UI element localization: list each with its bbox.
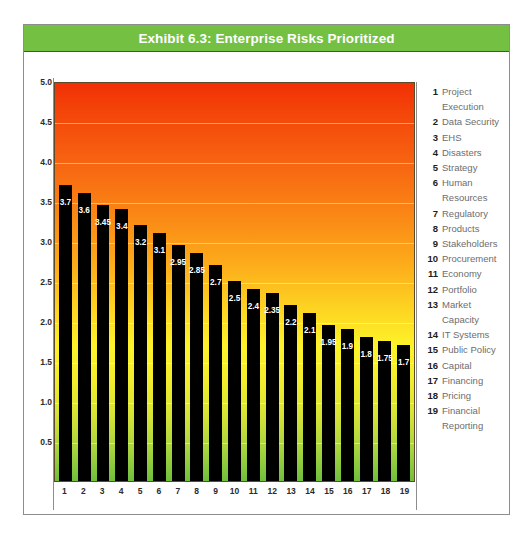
x-axis-tick-label: 16 [338, 483, 357, 501]
y-axis-tick-label: 4.5 [26, 118, 52, 127]
legend-item-label: Procurement [442, 251, 496, 266]
bar[interactable]: 1.7 [397, 345, 410, 481]
bar-slot: 3.45 [94, 83, 113, 481]
legend-item[interactable]: 15Public Policy [425, 342, 509, 357]
legend-item-label: Disasters [442, 145, 482, 160]
bar-slot: 3.2 [131, 83, 150, 481]
legend-item-number: 11 [425, 266, 438, 281]
bar-value-label: 2.2 [285, 319, 296, 327]
legend-item[interactable]: 3EHS [425, 130, 509, 145]
bar[interactable]: 3.2 [134, 225, 147, 481]
legend-item-number: 13 [425, 297, 438, 312]
y-axis-tick-label: 3.0 [26, 238, 52, 247]
legend-item[interactable]: 19Financial Reporting [425, 403, 509, 433]
legend-item-number: 7 [425, 206, 438, 221]
bar-value-label: 3.4 [116, 223, 127, 231]
bar-slot: 2.4 [244, 83, 263, 481]
bar[interactable]: 2.95 [172, 245, 185, 481]
bar-slot: 2.2 [282, 83, 301, 481]
legend-item[interactable]: 7Regulatory [425, 206, 509, 221]
legend-item[interactable]: 9Stakeholders [425, 236, 509, 251]
legend-item-label: IT Systems [442, 327, 489, 342]
bar[interactable]: 2.7 [209, 265, 222, 481]
y-axis-tick-label: 2.5 [26, 278, 52, 287]
bar[interactable]: 2.2 [284, 305, 297, 481]
legend-item-number: 14 [425, 327, 438, 342]
y-axis-tick-label: 0.5 [26, 438, 52, 447]
legend-item-label: Data Security [442, 114, 499, 129]
x-axis-tick-label: 17 [357, 483, 376, 501]
legend-item[interactable]: 12Portfolio [425, 282, 509, 297]
legend-item[interactable]: 8Products [425, 221, 509, 236]
bar[interactable]: 2.4 [247, 289, 260, 481]
bar-value-label: 2.4 [248, 303, 259, 311]
legend-item[interactable]: 2Data Security [425, 114, 509, 129]
legend-item-label: EHS [442, 130, 462, 145]
bar[interactable]: 3.45 [97, 205, 110, 481]
bar-value-label: 3.6 [78, 207, 89, 215]
bar-slot: 2.5 [225, 83, 244, 481]
bar[interactable]: 3.4 [115, 209, 128, 481]
y-axis-tick-label: 5.0 [26, 78, 52, 87]
bar-value-label: 3.1 [154, 247, 165, 255]
bar-value-label: 3.7 [60, 199, 71, 207]
legend-item-number: 1 [425, 84, 438, 99]
y-axis-labels: 5.04.54.03.53.02.52.01.51.00.5 [24, 53, 52, 514]
bar-value-label: 2.1 [304, 327, 315, 335]
legend-item[interactable]: 11Economy [425, 266, 509, 281]
legend-item-label: Human Resources [442, 175, 487, 205]
plot-area: 3.73.63.453.43.23.12.952.852.72.52.42.35… [54, 82, 415, 482]
bar-slot: 1.9 [338, 83, 357, 481]
bar[interactable]: 1.95 [322, 325, 335, 481]
x-axis-tick-label: 18 [376, 483, 395, 501]
chart-body: 5.04.54.03.53.02.52.01.51.00.5 3.73.63.4… [24, 53, 509, 514]
x-axis-tick-label: 14 [301, 483, 320, 501]
bar-slot: 1.95 [319, 83, 338, 481]
legend-item-number: 2 [425, 114, 438, 129]
x-axis-tick-label: 12 [263, 483, 282, 501]
bar-slot: 2.35 [263, 83, 282, 481]
y-axis-tick-label: 1.5 [26, 358, 52, 367]
legend-item-number: 15 [425, 342, 438, 357]
bar[interactable]: 3.7 [59, 185, 72, 481]
bar[interactable]: 2.35 [266, 293, 279, 481]
bar[interactable]: 3.1 [153, 233, 166, 481]
legend-item-number: 9 [425, 236, 438, 251]
legend-item-number: 18 [425, 388, 438, 403]
bar[interactable]: 1.9 [341, 329, 354, 481]
bar-value-label: 3.45 [95, 219, 111, 227]
bar[interactable]: 2.85 [190, 253, 203, 481]
bar-slot: 2.85 [188, 83, 207, 481]
legend-item-number: 6 [425, 175, 438, 190]
x-axis-tick-label: 11 [244, 483, 263, 501]
legend-item-label: Strategy [442, 160, 477, 175]
bar-slot: 3.7 [56, 83, 75, 481]
legend-item[interactable]: 17Financing [425, 373, 509, 388]
legend-item[interactable]: 1Project Execution [425, 84, 509, 114]
bar[interactable]: 1.8 [360, 337, 373, 481]
legend-item[interactable]: 14IT Systems [425, 327, 509, 342]
bar-value-label: 3.2 [135, 239, 146, 247]
x-axis-tick-label: 8 [187, 483, 206, 501]
bar[interactable]: 3.6 [78, 193, 91, 481]
x-axis-tick-label: 10 [225, 483, 244, 501]
bar[interactable]: 2.1 [303, 313, 316, 481]
legend-item[interactable]: 18Pricing [425, 388, 509, 403]
y-axis-tick-label: 4.0 [26, 158, 52, 167]
legend-item-label: Public Policy [442, 342, 496, 357]
bar-slot: 1.75 [376, 83, 395, 481]
legend-item[interactable]: 16Capital [425, 358, 509, 373]
bar[interactable]: 1.75 [378, 341, 391, 481]
bar-value-label: 2.35 [264, 307, 280, 315]
legend-item-label: Portfolio [442, 282, 477, 297]
legend-item[interactable]: 13Market Capacity [425, 297, 509, 327]
legend-item[interactable]: 4Disasters [425, 145, 509, 160]
bar-value-label: 1.9 [342, 343, 353, 351]
legend-item[interactable]: 6Human Resources [425, 175, 509, 205]
legend-item[interactable]: 10Procurement [425, 251, 509, 266]
legend-item-label: Market Capacity [442, 297, 479, 327]
page-title: Exhibit 6.3: Enterprise Risks Prioritize… [138, 31, 394, 46]
bar[interactable]: 2.5 [228, 281, 241, 481]
legend-item[interactable]: 5Strategy [425, 160, 509, 175]
bar-slot: 2.1 [300, 83, 319, 481]
